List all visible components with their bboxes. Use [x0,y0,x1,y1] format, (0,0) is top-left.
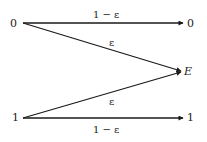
output-1-label: 1 [187,112,194,123]
input-1-label: 1 [12,112,19,123]
output-E-label: E [184,66,192,77]
edge-label-0-to-E: ε [109,37,114,48]
edge-0-to-E [23,23,181,71]
input-0-label: 0 [10,18,17,29]
edge-label-0-to-0: 1 − ε [93,9,119,20]
channel-diagram [0,0,207,142]
edge-label-1-to-1: 1 − ε [93,124,119,135]
edge-label-1-to-E: ε [109,96,114,107]
edge-1-to-E [23,72,181,118]
output-0-label: 0 [187,18,194,29]
